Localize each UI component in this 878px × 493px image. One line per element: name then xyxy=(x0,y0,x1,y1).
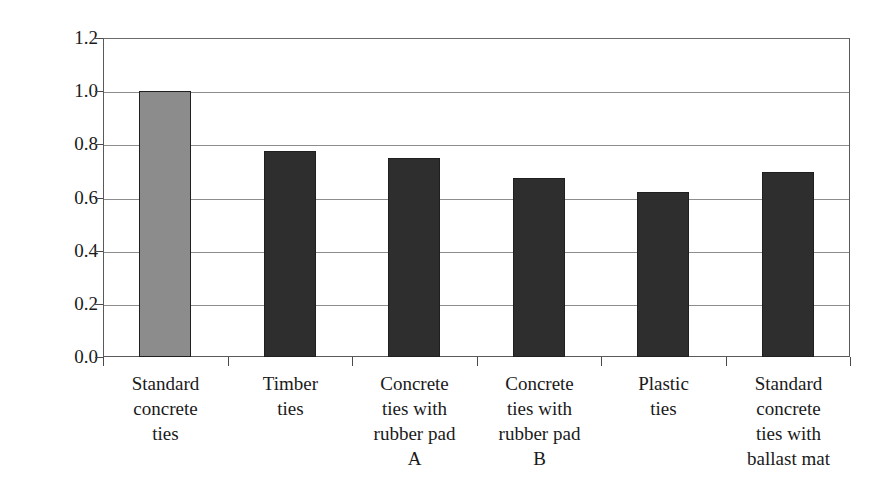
x-axis-tick-mark xyxy=(352,357,353,366)
y-axis-tick-label: 0.6 xyxy=(52,188,98,207)
bar xyxy=(139,91,191,357)
y-axis-tick-label: 0.8 xyxy=(52,134,98,153)
y-axis-tick-label: 0.2 xyxy=(52,294,98,313)
y-axis-tick-group: 0.00.20.40.60.81.01.2 xyxy=(40,0,98,493)
bar xyxy=(513,178,565,357)
x-axis-tick-mark xyxy=(103,357,104,366)
x-axis-tick-mark xyxy=(726,357,727,366)
x-axis-category-label: Timberties xyxy=(228,371,353,421)
x-axis-category-label: Standardconcreteties xyxy=(103,371,228,446)
bar-chart-figure: Impact ratio for midspan bending 0.00.20… xyxy=(0,0,878,493)
bar xyxy=(388,158,440,357)
x-axis-tick-mark xyxy=(601,357,602,366)
bar xyxy=(637,192,689,357)
y-axis-tick-label: 1.0 xyxy=(52,81,98,100)
y-axis-tick-label: 0.0 xyxy=(52,347,98,366)
x-axis-tick-mark xyxy=(228,357,229,366)
x-axis-tick-mark xyxy=(850,357,851,366)
x-axis-label-group: StandardconcretetiesTimbertiesConcreteti… xyxy=(103,371,850,489)
x-axis-category-label: Concreteties withrubber padB xyxy=(477,371,602,471)
x-axis-category-label: Standardconcreteties withballast mat xyxy=(726,371,851,471)
bar xyxy=(762,172,814,357)
y-axis-tick-label: 1.2 xyxy=(52,28,98,47)
x-axis-category-label: Plasticties xyxy=(601,371,726,421)
bars-layer xyxy=(103,38,850,357)
y-axis-tick-label: 0.4 xyxy=(52,241,98,260)
x-axis-tick-mark xyxy=(477,357,478,366)
bar xyxy=(264,151,316,357)
x-axis-category-label: Concreteties withrubber padA xyxy=(352,371,477,471)
